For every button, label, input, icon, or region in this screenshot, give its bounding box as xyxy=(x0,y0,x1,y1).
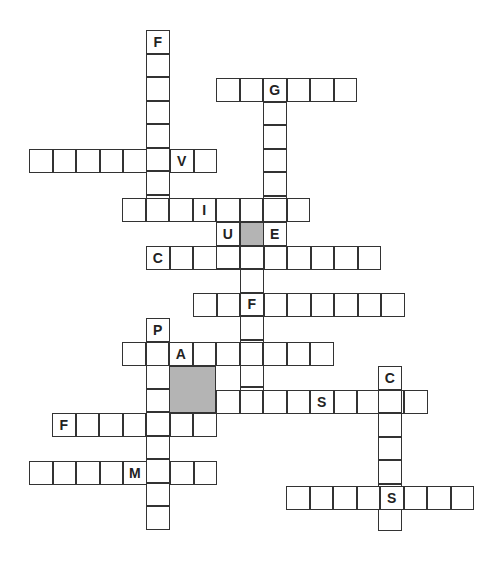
crossword-cell[interactable] xyxy=(310,486,334,510)
crossword-cell[interactable] xyxy=(146,412,170,436)
crossword-cell[interactable] xyxy=(334,246,358,270)
crossword-cell[interactable] xyxy=(378,507,402,531)
crossword-cell[interactable]: E xyxy=(263,222,287,246)
crossword-cell[interactable] xyxy=(216,78,240,102)
crossword-cell[interactable] xyxy=(146,77,170,101)
crossword-cell[interactable] xyxy=(287,78,311,102)
crossword-cell[interactable] xyxy=(193,413,217,437)
crossword-cell[interactable] xyxy=(146,171,170,195)
crossword-cell[interactable] xyxy=(263,198,287,222)
crossword-cell[interactable]: M xyxy=(123,461,147,485)
crossword-cell[interactable] xyxy=(263,102,287,126)
crossword-cell[interactable] xyxy=(53,461,77,485)
crossword-cell[interactable] xyxy=(76,149,100,173)
crossword-cell[interactable] xyxy=(123,149,147,173)
crossword-cell[interactable] xyxy=(310,78,334,102)
crossword-cell[interactable]: F xyxy=(240,293,264,317)
crossword-cell[interactable] xyxy=(146,148,170,172)
crossword-cell[interactable] xyxy=(76,461,100,485)
crossword-cell[interactable] xyxy=(451,486,475,510)
crossword-cell[interactable] xyxy=(378,413,402,437)
crossword-cell[interactable] xyxy=(146,124,170,148)
crossword-cell[interactable] xyxy=(311,293,335,317)
crossword-cell[interactable]: S xyxy=(310,390,334,414)
crossword-cell[interactable] xyxy=(240,390,264,414)
crossword-cell[interactable] xyxy=(240,78,264,102)
crossword-cell[interactable] xyxy=(287,246,311,270)
crossword-cell[interactable] xyxy=(146,365,170,389)
crossword-cell[interactable] xyxy=(263,125,287,149)
crossword-cell[interactable] xyxy=(333,486,357,510)
crossword-cell[interactable]: G xyxy=(263,78,287,102)
crossword-cell[interactable] xyxy=(170,461,194,485)
crossword-cell[interactable] xyxy=(357,486,381,510)
crossword-cell[interactable] xyxy=(240,246,264,270)
crossword-cell[interactable] xyxy=(170,413,194,437)
crossword-cell[interactable] xyxy=(146,389,170,413)
crossword-cell[interactable] xyxy=(240,342,264,366)
crossword-cell[interactable] xyxy=(311,246,335,270)
crossword-cell[interactable] xyxy=(146,54,170,78)
crossword-cell[interactable] xyxy=(146,506,170,530)
crossword-cell[interactable] xyxy=(287,342,311,366)
crossword-cell[interactable] xyxy=(263,390,287,414)
crossword-cell[interactable] xyxy=(378,460,402,484)
crossword-cell[interactable] xyxy=(193,293,217,317)
crossword-cell[interactable] xyxy=(357,390,381,414)
crossword-cell[interactable] xyxy=(287,293,311,317)
crossword-cell[interactable] xyxy=(310,342,334,366)
crossword-cell[interactable] xyxy=(334,78,358,102)
crossword-cell[interactable] xyxy=(146,198,170,222)
crossword-cell[interactable] xyxy=(100,149,124,173)
crossword-cell[interactable] xyxy=(381,293,405,317)
crossword-cell[interactable] xyxy=(194,461,218,485)
crossword-cell[interactable] xyxy=(170,246,194,270)
crossword-cell[interactable] xyxy=(122,198,146,222)
crossword-cell[interactable] xyxy=(216,390,240,414)
crossword-cell[interactable] xyxy=(263,172,287,196)
crossword-cell[interactable] xyxy=(216,198,240,222)
crossword-cell[interactable] xyxy=(378,437,402,461)
crossword-cell[interactable] xyxy=(216,246,240,270)
crossword-cell[interactable] xyxy=(122,342,146,366)
crossword-cell[interactable] xyxy=(216,342,240,366)
crossword-cell[interactable] xyxy=(146,483,170,507)
crossword-cell[interactable]: V xyxy=(170,149,194,173)
crossword-cell[interactable]: F xyxy=(52,413,76,437)
crossword-cell[interactable] xyxy=(29,149,53,173)
crossword-cell[interactable] xyxy=(334,390,358,414)
crossword-cell[interactable]: F xyxy=(146,30,170,54)
crossword-cell[interactable] xyxy=(404,486,428,510)
crossword-cell[interactable] xyxy=(194,149,218,173)
crossword-cell[interactable] xyxy=(287,198,311,222)
crossword-cell[interactable] xyxy=(264,293,288,317)
crossword-cell[interactable] xyxy=(334,293,358,317)
crossword-cell[interactable] xyxy=(240,363,264,387)
crossword-cell[interactable] xyxy=(100,461,124,485)
crossword-cell[interactable] xyxy=(76,413,100,437)
crossword-cell[interactable]: A xyxy=(169,342,193,366)
crossword-cell[interactable] xyxy=(378,390,402,414)
crossword-cell[interactable] xyxy=(53,149,77,173)
crossword-cell[interactable] xyxy=(146,436,170,460)
crossword-cell[interactable] xyxy=(193,342,217,366)
crossword-cell[interactable] xyxy=(264,246,288,270)
crossword-cell[interactable]: I xyxy=(193,198,217,222)
crossword-cell[interactable] xyxy=(217,293,241,317)
crossword-cell[interactable] xyxy=(358,293,382,317)
crossword-cell[interactable] xyxy=(404,390,428,414)
crossword-cell[interactable] xyxy=(169,198,193,222)
crossword-cell[interactable] xyxy=(99,413,123,437)
crossword-cell[interactable]: P xyxy=(146,318,170,342)
crossword-cell[interactable] xyxy=(286,486,310,510)
crossword-cell[interactable] xyxy=(146,342,170,366)
crossword-cell[interactable] xyxy=(240,316,264,340)
crossword-cell[interactable] xyxy=(29,461,53,485)
crossword-cell[interactable] xyxy=(123,413,147,437)
crossword-cell[interactable] xyxy=(240,198,264,222)
crossword-cell[interactable] xyxy=(287,390,311,414)
crossword-cell[interactable] xyxy=(146,459,170,483)
crossword-cell[interactable] xyxy=(263,342,287,366)
crossword-cell[interactable] xyxy=(427,486,451,510)
crossword-cell[interactable] xyxy=(146,101,170,125)
